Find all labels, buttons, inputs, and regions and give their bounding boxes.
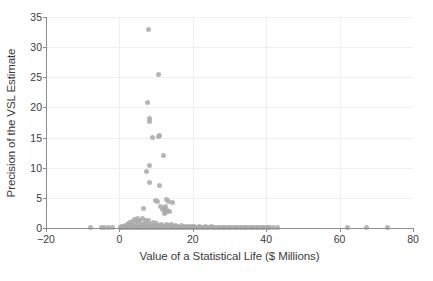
data-point	[162, 211, 167, 216]
x-tick-mark	[119, 229, 120, 232]
gridline-horizontal	[46, 198, 413, 199]
y-tick-mark	[43, 17, 46, 18]
y-tick-mark	[43, 47, 46, 48]
data-point	[147, 180, 152, 185]
data-point	[157, 183, 162, 188]
x-tick-mark	[413, 229, 414, 232]
y-tick-mark	[43, 107, 46, 108]
y-tick-label: 30	[16, 42, 42, 52]
data-point	[155, 199, 160, 204]
gridline-horizontal	[46, 107, 413, 108]
y-tick-label: 0	[16, 223, 42, 233]
data-point	[161, 153, 166, 158]
data-point	[141, 206, 146, 211]
data-point	[145, 100, 150, 105]
x-tick-mark	[340, 229, 341, 232]
y-tick-mark	[43, 168, 46, 169]
y-tick-label: 15	[16, 133, 42, 143]
y-tick-label: 5	[16, 193, 42, 203]
gridline-horizontal	[46, 168, 413, 169]
gridline-horizontal	[46, 47, 413, 48]
gridline-horizontal	[46, 17, 413, 18]
y-tick-label: 20	[16, 102, 42, 112]
gridline-vertical	[266, 17, 267, 228]
data-point	[144, 169, 149, 174]
gridline-vertical	[340, 17, 341, 228]
x-tick-mark	[193, 229, 194, 232]
y-tick-mark	[43, 198, 46, 199]
x-axis-title: Value of a Statistical Life ($ Millions)	[46, 250, 413, 262]
data-point	[147, 119, 152, 124]
y-axis-line	[46, 17, 47, 229]
data-point	[150, 135, 155, 140]
x-tick-mark	[266, 229, 267, 232]
data-point	[170, 200, 175, 205]
x-tick-label: 60	[320, 233, 360, 245]
data-point	[146, 27, 151, 32]
gridline-horizontal	[46, 77, 413, 78]
y-tick-label: 25	[16, 72, 42, 82]
data-point	[156, 134, 161, 139]
x-tick-label: 20	[173, 233, 213, 245]
x-axis-line	[46, 228, 414, 229]
gridline-vertical	[119, 17, 120, 228]
y-tick-label: 35	[16, 12, 42, 22]
y-tick-mark	[43, 77, 46, 78]
x-tick-label: −20	[26, 233, 66, 245]
plot-area	[46, 17, 413, 228]
gridline-vertical	[193, 17, 194, 228]
y-tick-label: 10	[16, 163, 42, 173]
x-tick-mark	[46, 229, 47, 232]
y-tick-mark	[43, 138, 46, 139]
x-tick-label: 0	[99, 233, 139, 245]
scatter-chart: Precision of the VSL Estimate 0510152025…	[0, 0, 433, 281]
x-tick-label: 40	[246, 233, 286, 245]
x-tick-label: 80	[393, 233, 433, 245]
gridline-horizontal	[46, 138, 413, 139]
